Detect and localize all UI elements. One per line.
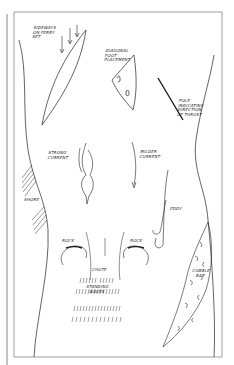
current-arrow-icon bbox=[79, 143, 93, 204]
label-rock-left: ROCK bbox=[62, 239, 75, 244]
down-arrow-icon bbox=[60, 25, 79, 53]
label-cobble-bar: COBBLE BAR bbox=[191, 269, 210, 278]
label-chute: CHUTE bbox=[92, 268, 107, 273]
label-strong-current: STRONG CURRENT bbox=[47, 151, 69, 160]
label-sideways-ferry-set: SIDEWAYS ON FERRY SET bbox=[32, 26, 56, 40]
cobble-bar bbox=[163, 222, 212, 347]
eddy-hook-icon bbox=[153, 170, 168, 248]
label-standing-waves: STANDING WAVES bbox=[85, 285, 109, 294]
page-frame bbox=[7, 12, 222, 365]
label-eddy: EDDY bbox=[170, 207, 183, 212]
label-pole-thrust: POLE INDICATING DIRECTION OF THRUST bbox=[177, 99, 205, 117]
label-diagonal-foot-placement: DIAGONAL FOOT PLACEMENT bbox=[104, 49, 132, 63]
current-arrow-icon bbox=[132, 142, 136, 188]
ferry-set-shape bbox=[42, 30, 86, 125]
label-shore: SHORE bbox=[24, 198, 40, 203]
label-rock-right: ROCK bbox=[130, 239, 143, 244]
foot-placement-shape bbox=[112, 55, 136, 110]
chute-channel bbox=[86, 232, 124, 280]
label-milder-current: MILDER CURRENT bbox=[139, 150, 161, 159]
